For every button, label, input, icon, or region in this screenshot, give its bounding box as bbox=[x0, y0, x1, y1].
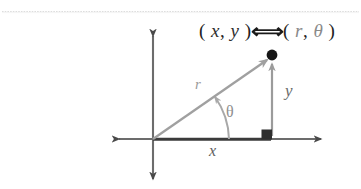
cartesian-close-paren: ) bbox=[239, 20, 251, 42]
polar-cartesian-diagram: ( x, y )⟺( r, θ ) r θ y x bbox=[0, 0, 361, 189]
y-symbol: y bbox=[231, 20, 240, 42]
r-symbol: r bbox=[295, 20, 303, 42]
top-divider-rule bbox=[2, 12, 359, 13]
x-symbol: x bbox=[211, 20, 220, 42]
cartesian-open-paren: ( bbox=[199, 20, 211, 42]
right-angle-marker bbox=[262, 130, 273, 140]
label-r: r bbox=[195, 76, 201, 93]
cartesian-comma: , bbox=[220, 20, 231, 42]
point-marker bbox=[267, 50, 278, 61]
r-ray bbox=[153, 60, 267, 139]
polar-close-paren: ) bbox=[323, 20, 335, 42]
label-y: y bbox=[285, 81, 293, 101]
label-x: x bbox=[209, 142, 216, 160]
equivalence-icon: ⟺ bbox=[250, 19, 284, 43]
polar-comma: , bbox=[303, 20, 314, 42]
coordinate-equivalence-expression: ( x, y )⟺( r, θ ) bbox=[199, 19, 335, 43]
polar-open-paren: ( bbox=[283, 20, 295, 42]
label-theta: θ bbox=[226, 103, 234, 121]
theta-symbol: θ bbox=[314, 20, 324, 42]
